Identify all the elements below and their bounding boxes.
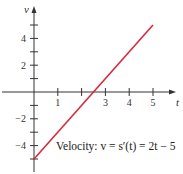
y-axis-arrow (32, 6, 37, 13)
y-tick-label: 2 (21, 60, 26, 71)
y-axis-label: v (24, 3, 29, 15)
y-tick-label: 4 (21, 33, 26, 44)
velocity-annotation: Velocity: v = s′(t) = 2t − 5 (56, 140, 176, 153)
x-tick-label: 5 (151, 97, 156, 108)
x-axis-arrow (169, 90, 176, 95)
x-tick-label: 4 (127, 97, 132, 108)
x-tick-label: 3 (103, 97, 108, 108)
velocity-chart: 1345−4−224 t v Velocity: v = s′(t) = 2t … (0, 0, 183, 174)
y-tick-label: −2 (15, 113, 26, 124)
y-tick-label: −4 (15, 140, 26, 151)
x-tick-label: 1 (55, 97, 60, 108)
x-axis-label: t (176, 96, 180, 108)
